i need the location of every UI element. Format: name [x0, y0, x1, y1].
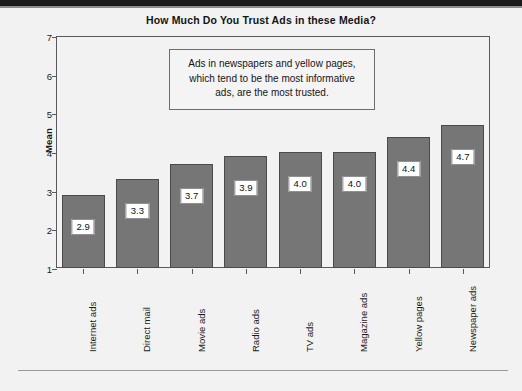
chart-page: How Much Do You Trust Ads in these Media… [0, 0, 522, 391]
bar-value-label: 4.0 [289, 176, 312, 192]
x-tick-mark [463, 269, 464, 274]
bar [333, 152, 376, 268]
bar [116, 179, 159, 268]
x-tick-label: Internet ads [87, 302, 98, 352]
x-tick-mark [409, 269, 410, 274]
x-tick-mark [83, 269, 84, 274]
annotation-callout: Ads in newspapers and yellow pages, whic… [169, 49, 375, 110]
annotation-line-3: ads, are the most trusted. [178, 86, 366, 101]
bar-value-label: 3.9 [234, 180, 257, 196]
y-tick-label: 6 [0, 70, 52, 81]
bar [387, 137, 430, 268]
x-tick-mark [137, 269, 138, 274]
bar [170, 164, 213, 268]
x-tick-mark [246, 269, 247, 274]
bar-value-label: 4.4 [397, 161, 420, 177]
x-tick-label: Yellow pages [413, 296, 424, 352]
bar [224, 156, 267, 268]
y-tick-label: 7 [0, 32, 52, 43]
bottom-divider [18, 370, 508, 371]
x-tick-mark [354, 269, 355, 274]
annotation-line-1: Ads in newspapers and yellow pages, [178, 57, 366, 72]
bar [441, 125, 484, 268]
bar-value-label: 3.7 [180, 188, 203, 204]
bar-value-label: 4.7 [451, 149, 474, 165]
y-tick-mark [52, 269, 57, 270]
y-tick-label: 2 [0, 225, 52, 236]
bar [279, 152, 322, 268]
y-tick-label: 3 [0, 186, 52, 197]
x-tick-label: Movie ads [196, 309, 207, 352]
x-tick-label: Radio ads [250, 309, 261, 352]
x-tick-label: Magazine ads [358, 293, 369, 352]
x-tick-label: Direct mail [141, 307, 152, 352]
bar-value-label: 2.9 [72, 219, 95, 235]
x-tick-mark [300, 269, 301, 274]
bar-value-label: 3.3 [126, 203, 149, 219]
x-tick-label: Newspaper ads [467, 286, 478, 352]
y-tick-label: 4 [0, 148, 52, 159]
bar-value-label: 4.0 [343, 176, 366, 192]
y-tick-label: 5 [0, 109, 52, 120]
top-divider-shadow [0, 6, 522, 8]
annotation-line-2: which tend to be the most informative [178, 72, 366, 87]
x-tick-mark [192, 269, 193, 274]
y-tick-label: 1 [0, 264, 52, 275]
x-tick-label: TV ads [304, 322, 315, 352]
chart-title: How Much Do You Trust Ads in these Media… [0, 14, 522, 26]
